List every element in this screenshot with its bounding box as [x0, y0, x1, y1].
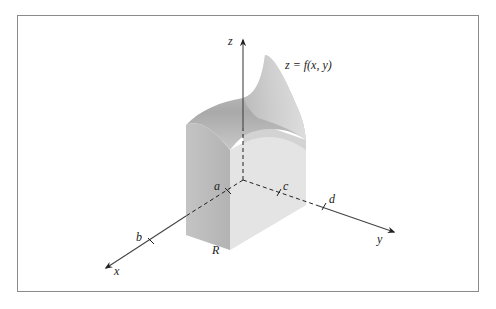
solid-front-face [230, 137, 306, 250]
z-axis-label: z [227, 34, 233, 48]
solid-left-face [186, 123, 230, 250]
tick-label-a: a [214, 179, 220, 193]
x-axis [106, 216, 186, 268]
solid-diagram: z x y z = f(x, y) R a b c d [0, 0, 496, 309]
y-axis-label: y [376, 232, 383, 246]
region-label: R [211, 243, 220, 257]
tick-label-d: d [329, 192, 336, 206]
tick-label-c: c [283, 179, 289, 193]
y-axis [316, 205, 394, 232]
tick-label-b: b [136, 230, 142, 244]
diagram-figure: z x y z = f(x, y) R a b c d [0, 0, 496, 309]
tick-d [322, 203, 326, 210]
surface-label: z = f(x, y) [284, 58, 332, 72]
x-axis-label: x [113, 264, 120, 278]
